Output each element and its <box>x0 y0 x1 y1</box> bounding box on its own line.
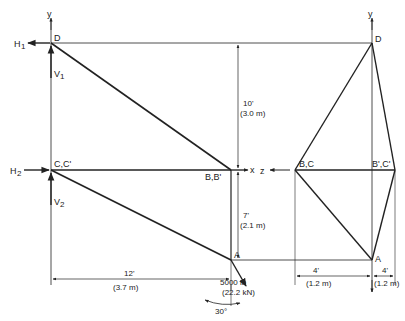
node-b-label: B,B' <box>205 172 222 182</box>
side-view <box>270 18 395 292</box>
side-view-labels: y D B,C B',C' z A 4' (1.2 m) 4' (1.2 m) <box>260 9 400 288</box>
h2-sub: 2 <box>17 169 22 178</box>
dim-right-imperial: 4' <box>382 266 388 275</box>
dim-12ft-metric: (3.7 m) <box>113 283 139 292</box>
truss-diagram: y D H 1 V 1 C,C' H 2 V 2 B,B' x A 10' (3… <box>0 0 405 321</box>
node-c-label: C,C' <box>54 159 71 169</box>
dim-right-metric: (1.2 m) <box>374 279 400 288</box>
dim-7ft-imperial: 7' <box>243 211 249 220</box>
member-d-bc <box>295 43 372 170</box>
dim-12ft-imperial: 12' <box>124 269 135 278</box>
dim-7ft-metric: (2.1 m) <box>240 221 266 230</box>
member-ca <box>51 170 231 260</box>
z-axis-label: z <box>260 166 265 176</box>
front-view <box>24 18 372 306</box>
side-node-bpcp-label: B',C' <box>372 159 391 169</box>
node-d-label: D <box>54 33 61 43</box>
member-bc-a <box>295 170 372 260</box>
dim-left-imperial: 4' <box>313 266 319 275</box>
angle-arc <box>205 300 240 304</box>
dim-left-metric: (1.2 m) <box>306 279 332 288</box>
load-value: 5000 lb <box>220 278 247 287</box>
member-bpcp-a <box>372 170 395 260</box>
node-a-label: A <box>234 250 240 260</box>
dim-10ft-metric: (3.0 m) <box>240 109 266 118</box>
y-axis-label: y <box>47 9 52 19</box>
side-node-bc-label: B,C <box>299 159 315 169</box>
v2-sub: 2 <box>60 200 65 209</box>
member-d-bpcp <box>372 43 395 170</box>
load-metric: (22.2 kN) <box>222 288 255 297</box>
x-axis-label: x <box>250 165 255 175</box>
member-db <box>51 43 231 170</box>
h1-sub: 1 <box>21 42 26 51</box>
load-angle: 30° <box>215 307 227 316</box>
h1-label: H <box>14 39 21 49</box>
h2-label: H <box>10 166 17 176</box>
side-node-a-label: A <box>375 254 381 264</box>
side-node-d-label: D <box>375 34 382 44</box>
side-y-axis-label: y <box>368 9 373 19</box>
dim-10ft-imperial: 10' <box>243 99 254 108</box>
front-view-labels: y D H 1 V 1 C,C' H 2 V 2 B,B' x A 10' (3… <box>10 9 266 316</box>
v1-sub: 1 <box>60 72 65 81</box>
